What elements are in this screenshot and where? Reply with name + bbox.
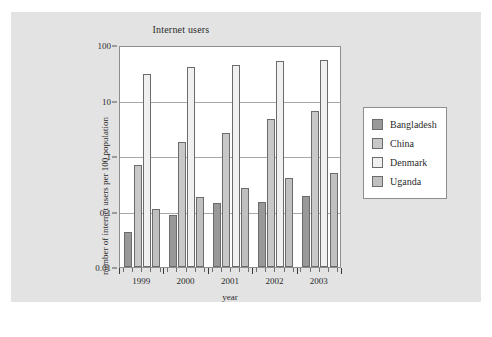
bar-denmark-2003	[320, 60, 328, 267]
x-minor-tick	[284, 268, 285, 272]
x-tick-label-1999: 1999	[132, 276, 150, 286]
x-minor-tick	[256, 268, 257, 272]
bar-bangladesh-2002	[258, 202, 266, 267]
x-minor-tick	[160, 268, 161, 272]
bar-bangladesh-2003	[302, 196, 310, 267]
x-minor-tick	[337, 268, 338, 272]
legend-swatch-bangladesh	[372, 119, 383, 130]
x-axis-title: year	[119, 292, 341, 302]
bar-china-2003	[311, 111, 319, 267]
x-minor-tick	[300, 268, 301, 272]
x-minor-tick	[176, 268, 177, 272]
bar-bangladesh-2001	[213, 203, 221, 267]
x-minor-tick	[319, 268, 320, 272]
x-minor-tick	[230, 268, 231, 272]
x-minor-tick	[123, 268, 124, 272]
legend-item-china: China	[372, 134, 437, 153]
x-minor-tick	[150, 268, 151, 272]
bar-denmark-2000	[187, 67, 195, 267]
bar-denmark-1999	[143, 74, 151, 267]
legend-label: Denmark	[390, 157, 427, 168]
chart-title: Internet users	[11, 24, 351, 35]
x-tick-label-2000: 2000	[177, 276, 195, 286]
legend-swatch-uganda	[372, 176, 383, 187]
legend-swatch-denmark	[372, 157, 383, 168]
x-minor-tick	[167, 268, 168, 272]
gridline	[120, 102, 340, 103]
x-minor-tick	[328, 268, 329, 272]
legend-item-bangladesh: Bangladesh	[372, 115, 437, 134]
x-minor-tick	[265, 268, 266, 272]
x-minor-tick	[239, 268, 240, 272]
x-minor-tick	[212, 268, 213, 272]
bar-uganda-2000	[196, 197, 204, 267]
bar-china-2000	[178, 142, 186, 267]
bar-uganda-2001	[241, 188, 249, 267]
x-axis: year 19992000200120022003	[119, 268, 341, 308]
legend-label: China	[390, 138, 414, 149]
x-group-tick	[119, 268, 120, 274]
bar-uganda-2002	[285, 178, 293, 267]
x-minor-tick	[221, 268, 222, 272]
legend-label: Bangladesh	[390, 119, 437, 130]
bar-denmark-2002	[276, 61, 284, 267]
x-minor-tick	[310, 268, 311, 272]
bar-uganda-1999	[152, 209, 160, 267]
x-group-tick	[341, 268, 342, 274]
x-group-tick	[252, 268, 253, 274]
bar-bangladesh-1999	[124, 232, 132, 267]
x-minor-tick	[204, 268, 205, 272]
x-group-tick	[208, 268, 209, 274]
x-group-tick	[163, 268, 164, 274]
legend-item-uganda: Uganda	[372, 172, 437, 191]
x-minor-tick	[141, 268, 142, 272]
x-minor-tick	[132, 268, 133, 272]
x-minor-tick	[274, 268, 275, 272]
legend-label: Uganda	[390, 176, 421, 187]
bar-denmark-2001	[232, 65, 240, 267]
legend-swatch-china	[372, 138, 383, 149]
x-minor-tick	[293, 268, 294, 272]
y-axis-title-wrap: number of internet users per 100 populat…	[71, 46, 117, 268]
x-tick-label-2002: 2002	[265, 276, 283, 286]
bar-china-2002	[267, 119, 275, 267]
x-minor-tick	[186, 268, 187, 272]
x-minor-tick	[195, 268, 196, 272]
bar-china-1999	[134, 165, 142, 267]
x-tick-label-2001: 2001	[221, 276, 239, 286]
x-tick-label-2003: 2003	[310, 276, 328, 286]
bar-uganda-2003	[330, 173, 338, 267]
y-axis-title: number of internet users per 100 populat…	[100, 96, 110, 296]
legend-item-denmark: Denmark	[372, 153, 437, 172]
x-group-tick	[297, 268, 298, 274]
plot-area	[119, 46, 341, 268]
bar-bangladesh-2000	[169, 215, 177, 267]
chart-legend: BangladeshChinaDenmarkUganda	[363, 107, 447, 199]
bar-china-2001	[222, 133, 230, 267]
x-minor-tick	[248, 268, 249, 272]
chart-figure: Internet users 0.010.1110100 number of i…	[11, 12, 481, 302]
